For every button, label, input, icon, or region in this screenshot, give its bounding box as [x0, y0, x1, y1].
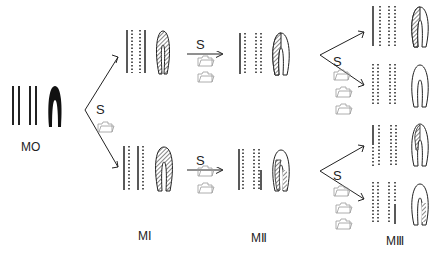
- stage-m2-bottom: [239, 149, 289, 191]
- diagram-svg: [0, 0, 439, 254]
- s-label-m1-bottom: S: [196, 153, 205, 168]
- stage-label-m1: MⅠ: [138, 229, 152, 243]
- stage-m0: [13, 86, 62, 127]
- s-label-m2-top: S: [333, 54, 342, 69]
- arrows-m1: [187, 54, 222, 193]
- stage-m3-row3: [373, 124, 428, 166]
- s-label-m0: S: [96, 102, 105, 117]
- stage-m1-top: [127, 30, 170, 74]
- stage-label-m0: MO: [21, 140, 40, 154]
- stage-m1-bottom: [124, 146, 172, 191]
- stage-label-m3: MⅢ: [386, 234, 404, 248]
- s-label-m1-top: S: [196, 37, 205, 52]
- arrows-m2: [320, 31, 364, 229]
- stage-m2-top: [240, 33, 289, 75]
- stage-m3-row1: [373, 6, 428, 47]
- stage-label-m2: MⅡ: [251, 231, 267, 245]
- s-label-m2-bottom: S: [333, 168, 342, 183]
- diagram-canvas: S S S S S MO MⅠ MⅡ MⅢ: [0, 0, 439, 254]
- stage-m3-row4: [373, 182, 428, 225]
- stage-m3-row2: [373, 64, 428, 107]
